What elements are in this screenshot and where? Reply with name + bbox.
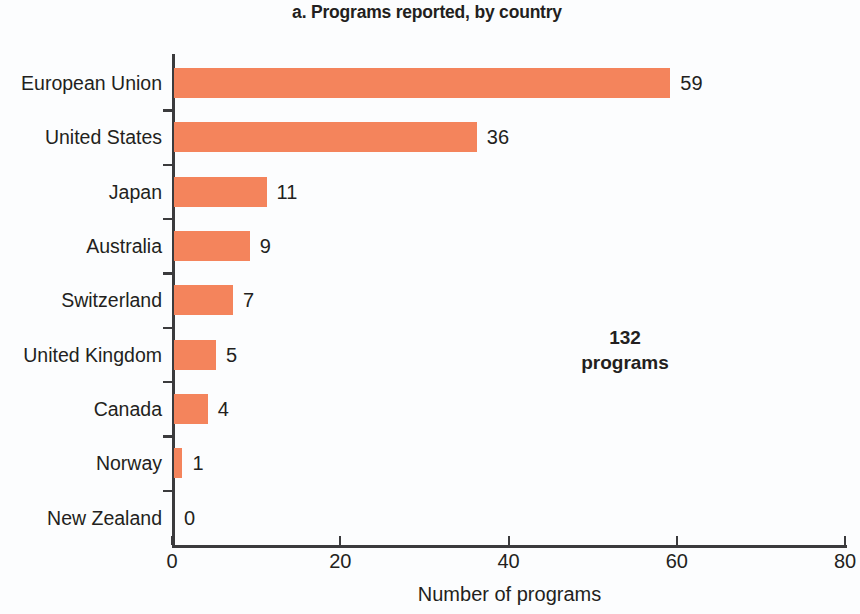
chart-row-united-states: United States36	[0, 110, 854, 164]
y-axis-tick	[163, 381, 172, 383]
chart-row-canada: Canada4	[0, 382, 854, 436]
bar-value-norway: 1	[192, 436, 203, 490]
bar-value-united-kingdom: 5	[226, 328, 237, 382]
x-axis-line	[172, 545, 847, 548]
category-label-new-zealand: New Zealand	[0, 491, 162, 545]
bar-value-australia: 9	[260, 219, 271, 273]
y-axis-tick	[163, 272, 172, 274]
x-axis-tick	[844, 536, 846, 545]
chart-row-japan: Japan11	[0, 165, 854, 219]
bar-norway[interactable]	[174, 448, 182, 478]
chart-title: a. Programs reported, by country	[0, 2, 854, 23]
category-label-norway: Norway	[0, 436, 162, 490]
category-label-switzerland: Switzerland	[0, 273, 162, 327]
chart-row-european-union: European Union59	[0, 56, 854, 110]
x-axis-title: Number of programs	[172, 583, 847, 606]
x-axis-tick-label: 40	[479, 550, 539, 573]
chart-row-switzerland: Switzerland7	[0, 273, 854, 327]
chart-row-united-kingdom: United Kingdom5	[0, 328, 854, 382]
x-axis-tick	[339, 536, 341, 545]
y-axis-tick	[163, 490, 172, 492]
category-label-european-union: European Union	[0, 56, 162, 110]
bar-united-kingdom[interactable]	[174, 340, 216, 370]
x-axis-tick-label: 60	[647, 550, 707, 573]
y-axis-tick	[163, 327, 172, 329]
chart-row-new-zealand: New Zealand0	[0, 491, 854, 545]
x-axis-tick-label: 0	[142, 550, 202, 573]
x-axis-tick-label: 20	[310, 550, 370, 573]
bar-value-united-states: 36	[487, 110, 509, 164]
category-label-australia: Australia	[0, 219, 162, 273]
chart-row-norway: Norway1	[0, 436, 854, 490]
category-label-united-states: United States	[0, 110, 162, 164]
y-axis-tick	[163, 109, 172, 111]
x-axis-tick-label: 80	[815, 550, 860, 573]
bar-switzerland[interactable]	[174, 285, 233, 315]
bar-value-new-zealand: 0	[184, 491, 195, 545]
category-label-canada: Canada	[0, 382, 162, 436]
category-label-united-kingdom: United Kingdom	[0, 328, 162, 382]
y-axis-tick	[163, 435, 172, 437]
bar-value-european-union: 59	[680, 56, 702, 110]
bar-canada[interactable]	[174, 394, 208, 424]
bar-value-switzerland: 7	[243, 273, 254, 327]
y-axis-tick	[163, 218, 172, 220]
chart-row-australia: Australia9	[0, 219, 854, 273]
bar-japan[interactable]	[174, 177, 267, 207]
x-axis-tick	[508, 536, 510, 545]
total-programs-unit: programs	[545, 350, 705, 375]
total-programs-count: 132	[545, 325, 705, 350]
bar-united-states[interactable]	[174, 122, 477, 152]
total-programs-annotation: 132 programs	[545, 325, 705, 375]
y-axis-tick	[163, 164, 172, 166]
bar-value-japan: 11	[277, 165, 298, 219]
bar-australia[interactable]	[174, 231, 250, 261]
bar-value-canada: 4	[218, 382, 229, 436]
bar-european-union[interactable]	[174, 68, 670, 98]
category-label-japan: Japan	[0, 165, 162, 219]
x-axis-tick	[676, 536, 678, 545]
x-axis-tick	[171, 536, 173, 545]
